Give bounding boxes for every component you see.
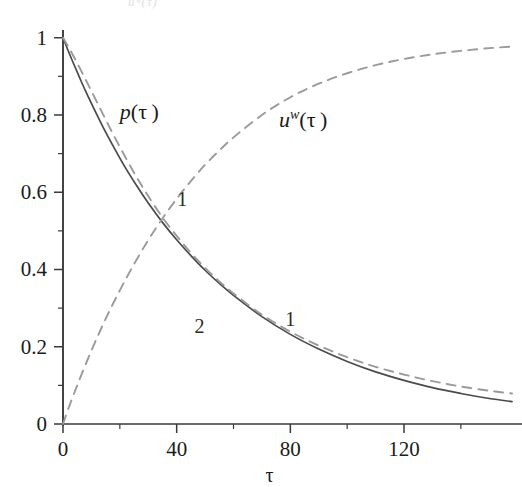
y-tick-label: 0.2 <box>21 335 47 359</box>
label-curve-1-upper: 1 <box>177 188 187 210</box>
chart-plot: 0408012000.20.40.60.81τ p(τ )uw(τ )121 <box>0 0 522 487</box>
label-p-tau: p(τ ) <box>118 99 159 124</box>
series-line-0 <box>63 38 512 402</box>
tick-labels-group: 0408012000.20.40.60.81τ <box>21 26 420 486</box>
label-u-w-tau: uw(τ ) <box>279 107 327 132</box>
x-tick-label: 0 <box>58 437 69 461</box>
axes-group <box>54 30 522 433</box>
series-line-1 <box>63 38 512 394</box>
y-tick-label: 1 <box>37 26 48 50</box>
y-tick-label: 0.8 <box>21 103 47 127</box>
label-curve-2: 2 <box>194 315 204 337</box>
figure-container: uʷ(τ) 0408012000.20.40.60.81τ p(τ )uw(τ … <box>0 0 522 487</box>
y-tick-label: 0.4 <box>21 257 48 281</box>
x-axis-label: τ <box>265 464 273 486</box>
curves-group <box>63 38 512 424</box>
x-tick-label: 120 <box>388 437 420 461</box>
x-tick-label: 80 <box>280 437 301 461</box>
y-tick-label: 0.6 <box>21 180 47 204</box>
label-curve-1-lower: 1 <box>285 308 295 330</box>
y-tick-label: 0 <box>37 412 48 436</box>
top-caption-fragment: uʷ(τ) <box>128 0 158 10</box>
x-tick-label: 40 <box>166 437 187 461</box>
annotations-group: p(τ )uw(τ )121 <box>118 99 327 337</box>
